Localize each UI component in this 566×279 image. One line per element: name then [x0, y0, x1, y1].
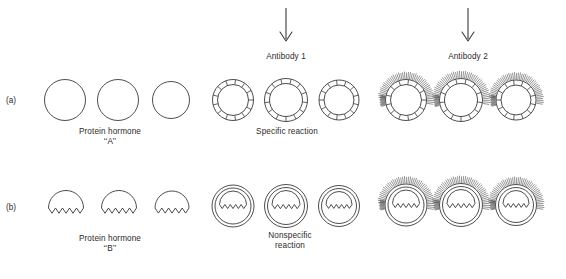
caption-nonspecific-reaction-line1: Nonspecific: [245, 231, 335, 241]
antibody-specificity-figure: (a) (b) Antibody 1 Antibody 2 Protein ho…: [0, 0, 566, 279]
caption-specific-reaction: Specific reaction: [237, 127, 337, 137]
row-label-a: (a): [6, 96, 16, 105]
caption-hormone-a-line2: ‘‘A’’: [50, 137, 170, 147]
caption-hormone-b-line2: ‘‘B’’: [50, 244, 170, 254]
heading-antibody-1: Antibody 1: [236, 52, 336, 62]
group-b-native: [40, 182, 200, 226]
down-arrow-antibody1: [277, 8, 295, 44]
row-label-b: (b): [6, 203, 16, 212]
group-b-antibody1: [207, 180, 367, 232]
caption-hormone-a-line1: Protein hormone: [50, 127, 170, 137]
group-a-antibody2: [376, 66, 554, 132]
caption-nonspecific-reaction-line2: reaction: [245, 241, 335, 251]
down-arrow-antibody2: [459, 8, 477, 44]
group-b-antibody2: [376, 172, 554, 236]
caption-hormone-a: Protein hormone ‘‘A’’: [50, 127, 170, 147]
caption-nonspecific-reaction: Nonspecific reaction: [245, 231, 335, 251]
group-a-antibody1: [207, 74, 367, 126]
caption-hormone-b: Protein hormone ‘‘B’’: [50, 234, 170, 254]
caption-specific-reaction-line1: Specific reaction: [237, 127, 337, 137]
group-a-native: [40, 76, 200, 124]
heading-antibody-2: Antibody 2: [418, 52, 518, 62]
caption-hormone-b-line1: Protein hormone: [50, 234, 170, 244]
